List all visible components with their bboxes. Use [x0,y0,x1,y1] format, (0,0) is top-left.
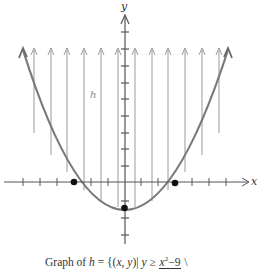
region-label: h [90,89,96,100]
vertex-point [121,205,128,212]
graph-svg [0,0,259,271]
y-axis-label: y [121,0,127,13]
x-axis [4,178,249,186]
graph-figure: y x h Graph of h = {(x, y)| y ≥ x2−9 \ [0,0,259,271]
x-intercept-right-point [172,180,179,187]
fraction-numerator: x2−9 [159,254,182,269]
shading-lines [31,48,222,207]
x-intercept-left-point [71,179,78,186]
x-axis-label: x [251,175,257,188]
figure-caption: Graph of h = {(x, y)| y ≥ x2−9 \ [45,254,188,269]
